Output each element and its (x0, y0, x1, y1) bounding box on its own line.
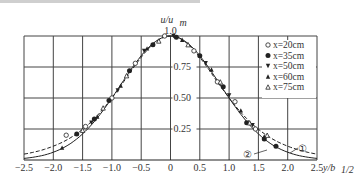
marker-filled-circle (273, 144, 278, 149)
x-tick-label: 0 (168, 162, 173, 173)
y-tick-label: 0.50 (174, 92, 192, 103)
legend-item-label: x=35cm (273, 51, 305, 61)
velocity-profile-chart: −2.5−2.0−1.5−1.0−0.500.51.01.52.02.50.25… (0, 0, 364, 179)
marker-filled-circle (106, 98, 111, 103)
x-tick-label: 2.5 (311, 162, 324, 173)
legend-item-label: x=75cm (273, 82, 305, 92)
x-tick-label: −1.0 (103, 162, 121, 173)
marker-open-circle (233, 100, 237, 104)
x-tick-label: 0.5 (194, 162, 207, 173)
marker-filled-circle (266, 53, 271, 58)
y-tick-label: 0.25 (174, 123, 192, 134)
marker-up-triangle (118, 83, 122, 87)
marker-filled-circle (74, 131, 79, 136)
x-axis-label-sub: 1/2 (341, 164, 354, 175)
marker-filled-circle (127, 68, 132, 73)
x-tick-label: −2.0 (44, 162, 62, 173)
legend-item-label: x=20cm (273, 40, 305, 50)
marker-open-circle (162, 34, 166, 38)
x-axis-label: y/b (322, 162, 335, 173)
x-tick-label: −2.5 (15, 162, 33, 173)
curve-1-annotation: ① (298, 144, 307, 154)
x-tick-label: 1.0 (223, 162, 236, 173)
x-tick-label: 2.0 (281, 162, 294, 173)
marker-up-triangle (239, 108, 243, 112)
x-tick-label: −1.5 (74, 162, 92, 173)
marker-filled-circle (150, 42, 155, 47)
marker-filled-circle (221, 84, 226, 89)
legend-item-label: x=50cm (273, 61, 305, 71)
marker-open-circle (266, 43, 270, 47)
marker-open-circle (133, 61, 137, 65)
legend-item-label: x=60cm (273, 72, 305, 82)
marker-open-circle (64, 133, 68, 137)
marker-open-circle (192, 49, 196, 53)
x-tick-label: −0.5 (132, 162, 150, 173)
y-axis-label: u/u (161, 14, 174, 25)
marker-open-triangle (265, 133, 269, 137)
marker-open-circle (253, 127, 257, 131)
y-axis-label-sub: m (180, 17, 187, 28)
curve-2-annotation: ② (243, 150, 252, 160)
marker-open-circle (83, 124, 87, 128)
y-tick-label: 0.75 (174, 61, 192, 72)
curve-2-leader (254, 150, 267, 154)
marker-filled-circle (197, 53, 202, 58)
cropped-caption-text (0, 0, 200, 3)
x-tick-label: 1.5 (252, 162, 265, 173)
